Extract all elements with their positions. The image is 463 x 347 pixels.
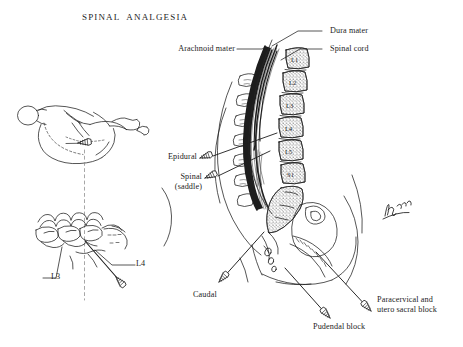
epidural-needle	[199, 151, 213, 161]
patient-position-needle	[78, 138, 92, 146]
patient-position-panel	[18, 106, 150, 164]
spinal-analgesia-figure: SPINAL ANALGESIA Dura mater Spinal cord …	[0, 0, 463, 347]
label-l3: L3	[51, 272, 60, 282]
label-l4: L4	[136, 259, 145, 269]
vertebra-label-S1: S1	[287, 170, 294, 180]
vertebra-label-L2: L2	[289, 78, 296, 88]
label-spinal-cord: Spinal cord	[330, 44, 369, 54]
vertebra-label-L4: L4	[285, 124, 292, 134]
dura-mater-leader	[272, 31, 322, 46]
pudendal-shaft	[285, 268, 327, 315]
label-paracervical-line1: Paracervical and	[377, 295, 433, 305]
sagittal-panel	[215, 40, 362, 285]
vertebral-bodies	[279, 48, 310, 184]
caudal-needle	[217, 270, 230, 284]
label-spinal-saddle-line2: (saddle)	[152, 182, 202, 192]
vertebra-label-L5: L5	[285, 147, 292, 157]
pudendal-needle	[319, 306, 332, 320]
vertebra-label-L1: L1	[291, 55, 298, 65]
paracervical-needle	[360, 300, 373, 314]
l4-leader	[95, 250, 135, 265]
label-dura-mater: Dura mater	[330, 26, 368, 36]
label-caudal: Caudal	[193, 290, 217, 300]
caudal-shaft	[222, 232, 264, 279]
figure-title: SPINAL ANALGESIA	[82, 12, 188, 22]
flank-contour	[162, 188, 172, 246]
artist-signature	[383, 201, 411, 219]
label-epidural: Epidural	[152, 152, 197, 162]
label-paracervical-line2: utero sacral block	[377, 305, 437, 315]
label-pudendal-block: Pudendal block	[313, 322, 365, 332]
label-spinal-saddle-line1: Spinal	[152, 172, 202, 182]
label-arachnoid-mater: Arachnoid mater	[165, 44, 235, 54]
paracervical-shaft	[316, 252, 368, 308]
vertebra-label-L3: L3	[286, 101, 293, 111]
arachnoid-mater-leader	[237, 47, 266, 49]
